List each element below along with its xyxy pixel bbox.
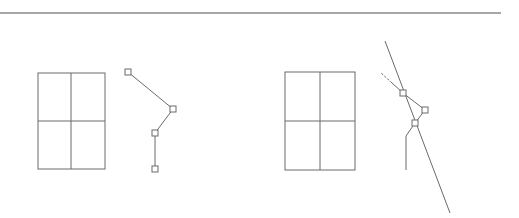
right-polyline-grip-handle[interactable]	[412, 120, 418, 126]
right-polyline-grip-handle[interactable]	[400, 90, 406, 96]
left-polyline-grip-handle[interactable]	[152, 166, 158, 172]
left-polyline-grip-handle[interactable]	[152, 130, 158, 136]
construction-line[interactable]	[385, 41, 450, 213]
right-polyline-grip-handle[interactable]	[422, 107, 428, 113]
left-polyline-grip-handle[interactable]	[170, 106, 176, 112]
left-figure-panel	[38, 69, 176, 172]
left-polyline[interactable]	[128, 72, 173, 169]
drawing-canvas[interactable]	[0, 0, 519, 218]
stub-line[interactable]	[406, 123, 415, 170]
left-polyline-grip-handle[interactable]	[125, 69, 131, 75]
right-figure-panel	[285, 41, 450, 213]
